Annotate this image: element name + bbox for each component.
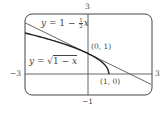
radicand: 1 − x: [53, 55, 77, 66]
radicand-constant: 1 −: [53, 56, 72, 66]
y-min-tick-label: −1: [82, 97, 93, 107]
x-min-tick-label: −3: [10, 69, 21, 79]
sqrt-curve-label: y = √1 − x: [29, 56, 77, 66]
curve-label-eq: =: [34, 56, 47, 66]
tangent-label-x: x: [84, 18, 89, 28]
fraction-denominator: 2: [79, 24, 83, 29]
tangent-label-eq: = 1 −: [46, 18, 78, 28]
radicand-x: x: [72, 56, 77, 66]
y-max-tick-label: 3: [85, 2, 90, 12]
point-label-0-1: (0, 1): [91, 42, 111, 52]
one-half-fraction: 12: [79, 18, 83, 29]
point-label-1-0: (1, 0): [100, 77, 120, 87]
x-max-tick-label: 3: [155, 69, 160, 79]
tangent-line-label: y = 1 − 12x: [41, 18, 89, 29]
sqrt-curve-series: [25, 33, 109, 74]
